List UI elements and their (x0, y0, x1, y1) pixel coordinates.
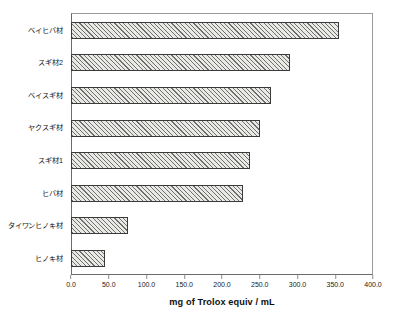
bar-row (71, 47, 373, 80)
y-axis-tick-label: ヤクスギ材 (28, 124, 63, 131)
y-axis-tick-label: タイワンヒノキ材 (8, 222, 63, 229)
tick-mark (70, 275, 71, 279)
bar-row (71, 177, 373, 210)
bar (71, 22, 339, 39)
x-axis-tick: 200.0 (213, 275, 231, 288)
tick-mark (373, 275, 374, 279)
x-axis-tick-label: 50.0 (102, 281, 116, 288)
x-axis-tick-label: 100.0 (138, 281, 156, 288)
y-axis-category-labels: ベイヒバ材 スギ材2 ベイスギ材 ヤクスギ材 スギ材1 ヒバ材 タイワンヒノキ材… (0, 14, 67, 275)
tick-mark (184, 275, 185, 279)
y-axis-label-row: タイワンヒノキ材 (0, 210, 67, 243)
bar-row (71, 210, 373, 243)
bar-row (71, 242, 373, 275)
x-axis-tick-label: 200.0 (213, 281, 231, 288)
tick-mark (108, 275, 109, 279)
x-axis-title: mg of Trolox equiv / mL (71, 297, 373, 307)
tick-mark (259, 275, 260, 279)
y-axis-tick-label: ヒバ材 (42, 190, 63, 197)
y-axis-label-row: スギ材1 (0, 144, 67, 177)
bar-row (71, 79, 373, 112)
bar-row (71, 112, 373, 145)
y-axis-tick-label: スギ材1 (38, 157, 63, 164)
y-axis-label-row: ベイヒバ材 (0, 14, 67, 47)
x-axis-tick: 0.0 (66, 275, 76, 288)
bar (71, 152, 250, 169)
x-axis-tick: 400.0 (364, 275, 382, 288)
x-axis-tick: 250.0 (251, 275, 269, 288)
x-axis-tick-label: 0.0 (66, 281, 76, 288)
bars-container (71, 14, 373, 275)
x-axis-tick: 50.0 (102, 275, 116, 288)
x-axis-tick-label: 400.0 (364, 281, 382, 288)
y-axis-label-row: ベイスギ材 (0, 79, 67, 112)
bar-row (71, 14, 373, 47)
x-axis-tick-label: 350.0 (326, 281, 344, 288)
tick-mark (146, 275, 147, 279)
y-axis-label-row: ヒノキ材 (0, 242, 67, 275)
x-axis-tick: 350.0 (326, 275, 344, 288)
bar (71, 120, 260, 137)
x-axis-tick: 150.0 (175, 275, 193, 288)
bar (71, 217, 128, 234)
bar (71, 185, 243, 202)
x-axis-tick: 300.0 (289, 275, 307, 288)
x-axis-tick-label: 150.0 (175, 281, 193, 288)
x-axis-tick-label: 300.0 (289, 281, 307, 288)
tick-mark (222, 275, 223, 279)
y-axis-label-row: ヤクスギ材 (0, 112, 67, 145)
x-axis-tick-label: 250.0 (251, 281, 269, 288)
bar (71, 54, 290, 71)
bar (71, 87, 271, 104)
tick-mark (335, 275, 336, 279)
tick-mark (297, 275, 298, 279)
y-axis-label-row: スギ材2 (0, 47, 67, 80)
y-axis-tick-label: ベイスギ材 (28, 92, 63, 99)
bar-chart: ベイヒバ材 スギ材2 ベイスギ材 ヤクスギ材 スギ材1 ヒバ材 タイワンヒノキ材… (0, 0, 397, 323)
x-axis-tick: 100.0 (138, 275, 156, 288)
y-axis-label-row: ヒバ材 (0, 177, 67, 210)
y-axis-tick-label: ベイヒバ材 (28, 27, 63, 34)
x-axis-ticks: 0.0 50.0 100.0 150.0 200.0 250.0 300.0 3… (71, 275, 373, 291)
bar (71, 250, 105, 267)
y-axis-tick-label: スギ材2 (38, 59, 63, 66)
y-axis-tick-label: ヒノキ材 (35, 255, 63, 262)
bar-row (71, 144, 373, 177)
